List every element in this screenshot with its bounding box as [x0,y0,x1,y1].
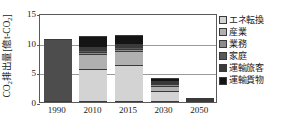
bar-segment[interactable] [115,65,143,102]
legend-item[interactable]: エネ転換 [219,14,285,26]
stacked-bar[interactable] [79,36,107,102]
bar-segment[interactable] [115,35,143,45]
y-axis-tick-label: 15 [27,10,36,19]
bar-segment[interactable] [79,36,107,47]
x-axis-tick-label: 2050 [190,106,208,115]
bar-segment[interactable] [79,69,107,102]
stacked-bar[interactable] [186,99,214,102]
bar-segment[interactable] [186,98,214,99]
bar-segment[interactable] [151,91,179,102]
bar-segment[interactable] [151,84,179,86]
legend-item-label: 家庭 [229,52,246,61]
bar-column[interactable] [44,13,72,102]
x-axis-tick-label: 2010 [83,106,101,115]
legend-swatch-icon [219,77,227,85]
legend-swatch-icon [219,52,227,60]
y-axis-title-sub-1: 2 [6,81,14,84]
co2-emissions-stacked-bar-chart: CO2排出量[億t-CO2] 051015 199020102015203020… [0,0,285,126]
bar-segment[interactable] [151,86,179,91]
legend-item[interactable]: 産業 [219,26,285,38]
x-axis-tick-label: 2030 [155,106,173,115]
stacked-bar[interactable] [115,35,143,102]
y-axis-tick-label: 5 [32,69,37,78]
bar-segment[interactable] [79,50,107,52]
bar-segment[interactable] [115,51,143,65]
y-axis-title-text: CO2排出量[億t-CO2] [3,15,13,98]
bar-segment[interactable] [79,52,107,54]
legend-swatch-icon [219,28,227,36]
y-axis-title: CO2排出量[億t-CO2] [0,0,16,112]
legend-item-label: 産業 [229,28,246,37]
y-axis-title-middle: 排出量[億t-CO [2,21,12,81]
bar-segment[interactable] [115,49,143,51]
legend-swatch-icon [219,40,227,48]
y-axis-tick-label: 0 [32,99,37,108]
bar-series-group [40,15,216,102]
legend-swatch-icon [219,64,227,72]
bar-column[interactable] [79,13,107,102]
x-axis-tick-label: 1990 [48,106,66,115]
bar-segment[interactable] [151,83,179,84]
bar-segment[interactable] [115,47,143,49]
legend-item[interactable]: 運輸旅客 [219,62,285,74]
legend-item[interactable]: 業務 [219,38,285,50]
legend-item-label: エネ転換 [229,16,264,25]
y-axis-tick-labels: 051015 [16,14,38,103]
bar-segment[interactable] [79,47,107,50]
legend-item-label: 運輸旅客 [229,64,264,73]
bar-segment[interactable] [79,54,107,69]
legend-item[interactable]: 家庭 [219,50,285,62]
bar-column[interactable] [115,13,143,102]
plot-area [39,14,217,103]
bar-segment[interactable] [151,81,179,83]
stacked-bar[interactable] [151,78,179,102]
legend-item-label: 運輸貨物 [229,76,264,85]
chart-legend: エネ転換産業業務家庭運輸旅客運輸貨物 [219,14,285,87]
bar-column[interactable] [151,13,179,102]
bar-segment[interactable] [115,44,143,47]
y-axis-tick-label: 10 [27,39,36,48]
legend-item[interactable]: 運輸貨物 [219,74,285,86]
x-axis-tick-labels: 19902010201520302050 [39,104,217,120]
legend-swatch-icon [219,16,227,24]
y-axis-title-prefix: CO [2,85,12,98]
stacked-bar[interactable] [44,39,72,102]
bar-column[interactable] [186,13,214,102]
x-axis-tick-label: 2015 [119,106,137,115]
legend-item-label: 業務 [229,40,246,49]
bar-segment-total[interactable] [44,39,72,102]
bar-segment[interactable] [151,78,179,80]
